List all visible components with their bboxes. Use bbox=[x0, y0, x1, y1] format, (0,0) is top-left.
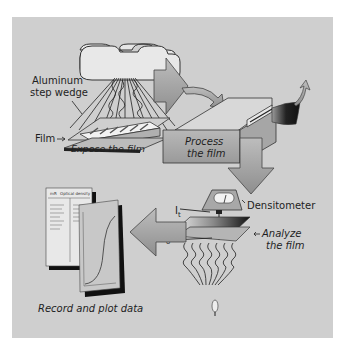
film-under-analysis bbox=[176, 217, 250, 241]
step-expose-label: Expose the film bbox=[71, 143, 145, 154]
it-label: It bbox=[175, 205, 181, 219]
step-analyze-label-1: Analyze bbox=[261, 228, 301, 239]
light-rays bbox=[183, 243, 236, 285]
step-record-label: Record and plot data bbox=[38, 303, 143, 314]
step-wedge-label: step wedge bbox=[30, 87, 88, 98]
flow-arrow-out bbox=[294, 80, 310, 106]
densitometer-label: Densitometer bbox=[247, 200, 316, 211]
table-header-mr: mR bbox=[50, 191, 57, 196]
table-header-od: Optical density bbox=[60, 191, 91, 196]
analyze-pointer bbox=[254, 232, 260, 236]
step-process-label-2: the film bbox=[187, 148, 226, 159]
plot-sheet bbox=[79, 200, 125, 297]
aluminum-label: Aluminum bbox=[32, 75, 83, 86]
step-analyze-label-2: the film bbox=[266, 240, 305, 251]
step-process-label-1: Process bbox=[185, 136, 223, 147]
film-label: Film bbox=[35, 133, 55, 144]
film-dosimetry-diagram: Aluminum step wedge Film Expose the film… bbox=[0, 0, 344, 349]
film-pointer bbox=[57, 137, 65, 141]
wedge-pointer bbox=[72, 101, 82, 114]
densitometer-pointer bbox=[242, 200, 245, 203]
light-source-icon bbox=[212, 300, 218, 316]
